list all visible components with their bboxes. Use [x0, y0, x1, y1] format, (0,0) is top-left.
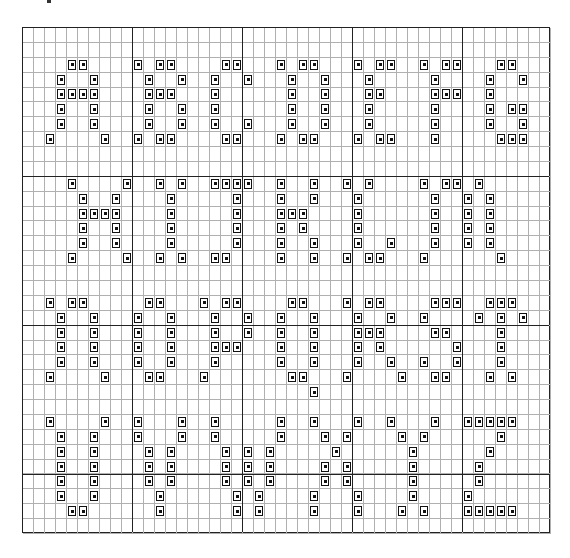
grid-cell [188, 28, 199, 43]
grid-cell [331, 400, 342, 415]
cropped-glyph-fragment [47, 0, 51, 3]
grid-cell [155, 192, 166, 207]
grid-cell [419, 207, 430, 222]
grid-cell [463, 415, 474, 430]
grid-cell [397, 43, 408, 58]
grid-cell [463, 43, 474, 58]
grid-cell [419, 385, 430, 400]
grid-cell [188, 236, 199, 251]
grid-cell [254, 147, 265, 162]
grid-cell [133, 43, 144, 58]
grid-cell [353, 415, 364, 430]
grid-cell [45, 385, 56, 400]
grid-cell [331, 236, 342, 251]
grid-cell [375, 132, 386, 147]
grid-cell [474, 296, 485, 311]
grid-cell [463, 341, 474, 356]
grid-cell [463, 489, 474, 504]
grid-cell [364, 58, 375, 73]
grid-cell [485, 519, 496, 534]
grid-cell [265, 88, 276, 103]
grid-cell [23, 177, 34, 192]
grid-cell [320, 192, 331, 207]
grid-cell [496, 162, 507, 177]
stitch-mark-icon [321, 75, 329, 85]
grid-cell [430, 132, 441, 147]
grid-cell [265, 504, 276, 519]
stitch-mark-icon [57, 104, 65, 114]
grid-cell [353, 519, 364, 534]
grid-cell [155, 221, 166, 236]
grid-cell [386, 385, 397, 400]
grid-cell [144, 326, 155, 341]
grid-cell [397, 102, 408, 117]
grid-cell [331, 326, 342, 341]
stitch-mark-icon [233, 238, 241, 248]
grid-cell [485, 504, 496, 519]
grid-cell [111, 355, 122, 370]
stitch-mark-icon [145, 462, 153, 472]
stitch-mark-icon [178, 179, 186, 189]
grid-cell [540, 415, 551, 430]
grid-cell [276, 132, 287, 147]
grid-cell [298, 88, 309, 103]
grid-cell [254, 415, 265, 430]
grid-cell [430, 489, 441, 504]
grid-cell [430, 311, 441, 326]
grid-cell [67, 385, 78, 400]
grid-cell [210, 162, 221, 177]
grid-cell [529, 236, 540, 251]
grid-cell [364, 445, 375, 460]
grid-cell [540, 385, 551, 400]
stitch-mark-icon [431, 298, 439, 308]
stitch-mark-icon [123, 179, 131, 189]
grid-cell [507, 73, 518, 88]
grid-cell [397, 162, 408, 177]
grid-cell [419, 102, 430, 117]
grid-cell [254, 207, 265, 222]
stitch-mark-icon [145, 75, 153, 85]
grid-cell [463, 207, 474, 222]
grid-cell [408, 370, 419, 385]
stitch-mark-icon [222, 253, 230, 263]
grid-cell [353, 326, 364, 341]
grid-cell [265, 415, 276, 430]
stitch-mark-icon [211, 432, 219, 442]
grid-cell [375, 58, 386, 73]
grid-cell [320, 326, 331, 341]
grid-cell [265, 73, 276, 88]
grid-cell [188, 519, 199, 534]
grid-cell [320, 43, 331, 58]
grid-cell [188, 162, 199, 177]
stitch-mark-icon [497, 506, 505, 516]
grid-cell [529, 311, 540, 326]
stitch-mark-icon [299, 134, 307, 144]
grid-cell [419, 489, 430, 504]
grid-cell [199, 296, 210, 311]
grid-cell [34, 519, 45, 534]
grid-cell [133, 266, 144, 281]
grid-cell [408, 460, 419, 475]
stitch-mark-icon [310, 491, 318, 501]
grid-cell [375, 385, 386, 400]
grid-cell [133, 445, 144, 460]
grid-cell [100, 266, 111, 281]
stitch-mark-icon [178, 119, 186, 129]
grid-cell [540, 445, 551, 460]
grid-cell [485, 400, 496, 415]
stitch-mark-icon [90, 357, 98, 367]
grid-cell [419, 281, 430, 296]
grid-cell [78, 251, 89, 266]
stitch-mark-icon [453, 298, 461, 308]
grid-cell [397, 341, 408, 356]
grid-cell [221, 73, 232, 88]
grid-cell [441, 311, 452, 326]
grid-cell [287, 236, 298, 251]
grid-cell [67, 400, 78, 415]
grid-cell [23, 147, 34, 162]
stitch-mark-icon [442, 60, 450, 70]
grid-cell [309, 251, 320, 266]
grid-cell [177, 504, 188, 519]
grid-cell [364, 43, 375, 58]
grid-cell [287, 192, 298, 207]
